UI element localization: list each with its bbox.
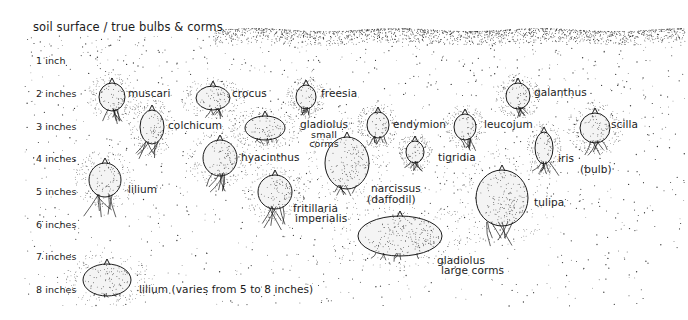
soil-dot	[617, 63, 618, 64]
surface-dot	[630, 40, 631, 41]
soil-dot	[611, 197, 612, 198]
surface-dot	[443, 33, 444, 34]
soil-dot	[522, 80, 523, 81]
surface-dot	[242, 32, 243, 33]
soil-dot	[444, 166, 445, 167]
surface-dot	[651, 32, 652, 33]
soil-dot	[316, 56, 317, 57]
soil-dot	[150, 216, 151, 217]
soil-dot	[653, 117, 654, 118]
soil-dot	[502, 107, 503, 108]
soil-dot	[251, 65, 252, 66]
surface-dot	[559, 36, 560, 37]
soil-dot	[159, 242, 160, 243]
surface-dot	[223, 30, 224, 31]
soil-dot	[494, 73, 495, 74]
soil-dot	[679, 80, 680, 81]
surface-dot	[522, 29, 523, 30]
surface-dot	[423, 31, 424, 32]
surface-dot	[566, 29, 567, 30]
soil-dot	[517, 292, 518, 293]
soil-dot	[560, 37, 561, 38]
soil-dot	[289, 116, 290, 117]
soil-dot	[58, 48, 59, 49]
surface-dot	[375, 34, 376, 35]
soil-dot	[652, 103, 653, 104]
soil-dot	[225, 190, 226, 191]
surface-dot	[410, 38, 411, 39]
soil-dot	[287, 77, 288, 78]
surface-dot	[235, 35, 236, 36]
soil-dot	[429, 189, 430, 190]
surface-dot	[306, 33, 307, 34]
surface-dot	[277, 36, 278, 37]
soil-dot	[125, 55, 126, 56]
surface-dot	[519, 43, 520, 44]
surface-dot	[215, 44, 216, 45]
soil-dot	[68, 214, 69, 215]
soil-dot	[119, 36, 120, 37]
soil-dot	[123, 60, 124, 61]
soil-dot	[306, 173, 307, 174]
surface-dot	[310, 32, 311, 33]
surface-dot	[636, 43, 637, 44]
surface-dot	[615, 31, 616, 32]
soil-dot	[283, 44, 284, 45]
surface-dot	[271, 41, 272, 42]
surface-dot	[276, 31, 277, 32]
soil-dot	[337, 189, 338, 190]
surface-dot	[361, 33, 362, 34]
surface-dot	[490, 33, 491, 34]
surface-dot	[545, 31, 546, 32]
surface-dot	[480, 31, 481, 32]
surface-dot	[394, 32, 395, 33]
soil-dot	[464, 217, 465, 218]
surface-dot	[215, 42, 216, 43]
soil-dot	[553, 161, 554, 162]
surface-dot	[665, 35, 666, 36]
surface-dot	[428, 32, 429, 33]
surface-dot	[679, 38, 680, 39]
surface-dot	[535, 39, 536, 40]
soil-dot	[215, 194, 216, 195]
surface-dot	[595, 33, 596, 34]
soil-dot	[384, 88, 385, 89]
soil-dot	[233, 175, 234, 176]
soil-dot	[100, 63, 101, 64]
soil-dot	[85, 90, 86, 91]
soil-dot	[104, 248, 105, 249]
surface-dot	[249, 30, 250, 31]
surface-dot	[247, 31, 248, 32]
surface-dot	[271, 31, 272, 32]
soil-dot	[92, 43, 93, 44]
surface-dot	[481, 36, 482, 37]
surface-dot	[298, 35, 299, 36]
soil-dot	[137, 80, 138, 81]
surface-dot	[498, 34, 499, 35]
soil-dot	[31, 101, 32, 102]
soil-dot	[256, 235, 257, 236]
soil-dot	[125, 297, 126, 298]
surface-dot	[516, 29, 517, 30]
surface-dot	[487, 39, 488, 40]
soil-dot	[532, 45, 533, 46]
soil-dot	[62, 150, 63, 151]
surface-dot	[535, 32, 536, 33]
soil-dot	[150, 255, 151, 256]
surface-dot	[402, 33, 403, 34]
surface-dot	[611, 40, 612, 41]
soil-dot	[360, 123, 361, 124]
surface-dot	[548, 34, 549, 35]
surface-dot	[508, 41, 509, 42]
surface-dot	[554, 28, 555, 29]
surface-dot	[467, 38, 468, 39]
surface-dot	[227, 32, 228, 33]
surface-dot	[454, 39, 455, 40]
surface-dot	[450, 34, 451, 35]
soil-dot	[308, 260, 309, 261]
soil-dot	[612, 115, 613, 116]
surface-dot	[443, 42, 444, 43]
surface-dot	[465, 31, 466, 32]
surface-dot	[286, 30, 287, 31]
soil-dot	[508, 305, 509, 306]
